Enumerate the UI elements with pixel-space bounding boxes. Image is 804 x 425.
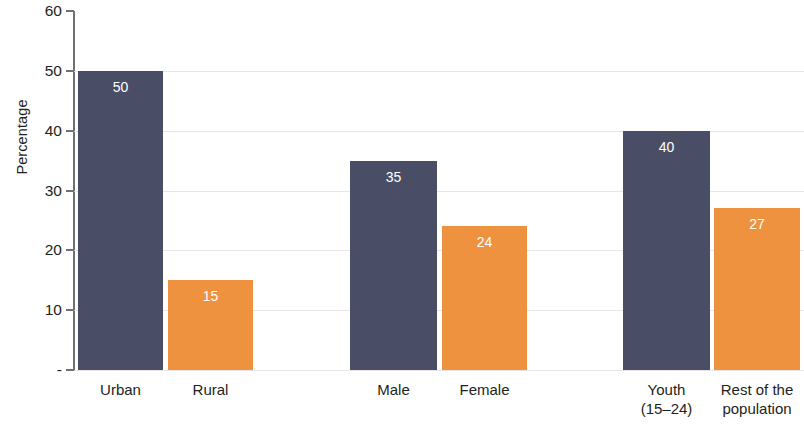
y-axis-tick-mark — [66, 190, 74, 192]
bar[interactable]: 35 — [350, 161, 437, 370]
y-axis-tick-label: - — [16, 362, 62, 378]
x-axis-category-label: Rural — [154, 380, 267, 399]
bar[interactable]: 50 — [78, 71, 163, 370]
y-axis-tick-label: 30 — [16, 183, 62, 199]
y-axis-tick-label: 60 — [16, 3, 62, 19]
y-axis-tick-mark — [66, 249, 74, 251]
gridline — [74, 370, 804, 371]
bar[interactable]: 40 — [623, 131, 710, 370]
bar-value-label: 50 — [78, 80, 163, 94]
bar-chart: Percentage 605040302010- 501535244027 Ur… — [0, 0, 804, 425]
y-axis-tick-mark — [66, 10, 74, 12]
x-axis-category-label: Rest of thepopulation — [700, 380, 804, 418]
y-axis-tick-label: 20 — [16, 242, 62, 258]
x-axis-category-label-line: population — [700, 399, 804, 418]
y-axis-tick-mark — [66, 70, 74, 72]
y-axis-tick-mark — [66, 369, 74, 371]
bar-value-label: 40 — [623, 140, 710, 154]
y-axis-tick-mark — [66, 130, 74, 132]
y-axis-ticks: 605040302010- — [0, 0, 62, 425]
bar-value-label: 15 — [168, 289, 253, 303]
bar[interactable]: 27 — [714, 208, 800, 370]
bar[interactable]: 15 — [168, 280, 253, 370]
bar[interactable]: 24 — [442, 226, 527, 370]
y-axis-tick-label: 10 — [16, 302, 62, 318]
plot-area: 501535244027 — [74, 11, 804, 370]
bar-value-label: 27 — [714, 217, 800, 231]
bar-value-label: 35 — [350, 170, 437, 184]
x-axis-category-label-line: Female — [428, 380, 541, 399]
y-axis-tick-mark — [66, 309, 74, 311]
x-axis-category-label-line: Rest of the — [700, 380, 804, 399]
x-axis-category-label: Female — [428, 380, 541, 399]
x-axis-category-label-line: Rural — [154, 380, 267, 399]
y-axis-tick-label: 40 — [16, 123, 62, 139]
y-axis-tick-label: 50 — [16, 63, 62, 79]
bar-value-label: 24 — [442, 235, 527, 249]
gridline — [74, 71, 804, 72]
